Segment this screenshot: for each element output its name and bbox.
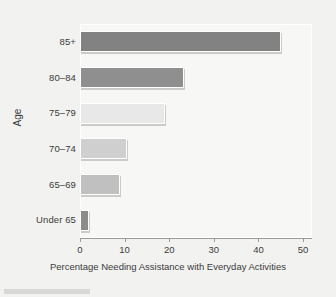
bar-row xyxy=(80,60,312,96)
bar-row xyxy=(80,95,312,131)
x-tick-mark xyxy=(169,238,170,242)
x-tick-label: 0 xyxy=(65,244,95,255)
bar-75-79 xyxy=(80,103,165,124)
x-tick-label: 30 xyxy=(199,244,229,255)
bar-chart-figure: Age Under 6565–6970–7475–7980–8485+ Perc… xyxy=(0,0,336,297)
x-tick-mark xyxy=(214,238,215,242)
x-tick-mark xyxy=(258,238,259,242)
x-axis-line xyxy=(80,238,312,239)
x-tick-mark xyxy=(303,238,304,242)
y-tick-label: Under 65 xyxy=(2,214,76,225)
bar-65-69 xyxy=(80,174,120,195)
bars-layer xyxy=(80,24,312,238)
bar-80-84 xyxy=(80,67,184,88)
bar-row xyxy=(80,131,312,167)
x-tick-label: 10 xyxy=(110,244,140,255)
y-tick-label: 65–69 xyxy=(2,179,76,190)
y-axis-tick-labels: Under 6565–6970–7475–7980–8485+ xyxy=(0,24,76,238)
x-tick-mark xyxy=(80,238,81,242)
bar-row xyxy=(80,24,312,60)
bar-70-74 xyxy=(80,138,127,159)
x-axis-title: Percentage Needing Assistance with Every… xyxy=(0,261,336,272)
y-tick-label: 80–84 xyxy=(2,72,76,83)
bar-85+ xyxy=(80,31,281,52)
y-tick-label: 70–74 xyxy=(2,143,76,154)
x-tick-label: 20 xyxy=(154,244,184,255)
y-tick-label: 85+ xyxy=(2,36,76,47)
bar-under-65 xyxy=(80,210,89,231)
x-tick-label: 40 xyxy=(243,244,273,255)
x-tick-mark xyxy=(125,238,126,242)
x-tick-label: 50 xyxy=(288,244,318,255)
bar-row xyxy=(80,202,312,238)
y-tick-label: 75–79 xyxy=(2,107,76,118)
bar-row xyxy=(80,167,312,203)
caption-strip xyxy=(4,289,90,294)
